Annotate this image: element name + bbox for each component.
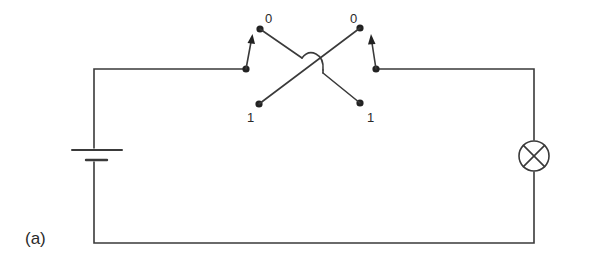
left-contact-0-label: 0 [265,11,272,26]
figure-caption: (a) [25,229,46,248]
lamp-icon [519,141,549,171]
right-switch-arrow-icon [368,34,376,45]
left-switch [242,25,263,107]
circuit-diagram: 0 1 0 1 (a) [0,0,589,266]
battery-icon [72,150,122,160]
left-switch-arrow-icon [248,34,256,44]
left-contact-1-label: 1 [247,110,254,125]
crossover-wires [259,28,360,104]
right-contact-0-label: 0 [350,11,357,26]
right-switch [356,24,379,106]
right-contact-1-label: 1 [367,110,374,125]
circuit-wires [94,69,534,243]
